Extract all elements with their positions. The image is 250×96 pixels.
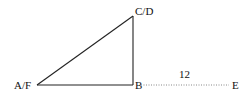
- point-label-e: E: [232, 80, 239, 91]
- segment-af-cd: [37, 16, 133, 85]
- point-label-a-f: A/F: [14, 80, 31, 91]
- diagram-lines: [0, 0, 250, 96]
- point-label-c-d: C/D: [135, 6, 153, 17]
- point-label-b: B: [135, 80, 142, 91]
- length-label-be: 12: [179, 69, 190, 80]
- geometry-diagram: C/D A/F B 12 E: [0, 0, 250, 96]
